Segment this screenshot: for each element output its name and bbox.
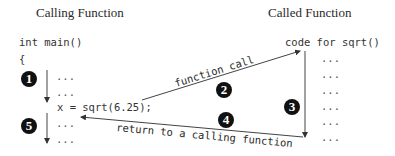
step-badge-3: 3 [284, 99, 300, 115]
step-badge-1: 1 [21, 71, 37, 87]
step-badge-2: 2 [216, 82, 232, 98]
function-call-label: function call [173, 53, 255, 89]
step-badge-4: 4 [218, 112, 234, 128]
flow-arrows: function call return to a calling functi… [0, 0, 395, 156]
return-label: return to a calling function [116, 121, 293, 149]
step-badge-5: 5 [21, 118, 37, 134]
